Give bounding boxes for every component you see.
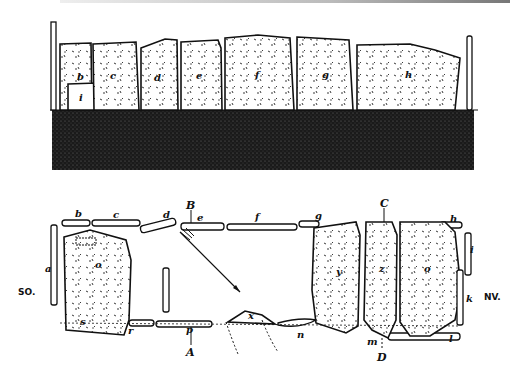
dotted-line-1 [226, 322, 238, 354]
label-g: g [322, 69, 329, 80]
section-C: C [380, 197, 389, 210]
plan-label-z: z [378, 263, 385, 274]
capstone-o-right [400, 222, 461, 336]
plan-label-p: p [186, 324, 193, 335]
slab-c [92, 220, 140, 226]
plan-label-k: k [466, 293, 473, 304]
elevation-stone-f [225, 35, 294, 110]
capstone-y [312, 222, 360, 333]
capstone-z [364, 222, 397, 338]
label-d: d [154, 72, 161, 83]
slab-interior [163, 268, 169, 312]
plan-label-o2: o [424, 263, 431, 274]
slab-g [299, 221, 319, 227]
plan-label-c: c [113, 209, 119, 220]
plan-label-i: i [470, 244, 474, 255]
post-right [467, 36, 472, 110]
elevation-view: b i c d e f g h [50, 22, 478, 170]
plan-label-r: r [128, 325, 134, 336]
plan-label-e: e [197, 212, 203, 223]
plan-label-d: d [163, 209, 170, 220]
slab-f [227, 224, 297, 230]
slab-a [51, 225, 57, 305]
slab-d [140, 218, 177, 234]
plan-label-x: x [247, 310, 255, 321]
orientation-nv: NV. [484, 292, 501, 302]
plan-label-g: g [315, 210, 322, 221]
plan-label-a: a [45, 263, 51, 274]
label-e: e [196, 70, 202, 81]
section-B: B [185, 199, 195, 212]
plan-label-s: s [80, 316, 86, 327]
section-A: A [185, 346, 195, 359]
dolmen-drawing: b i c d e f g h [0, 0, 518, 374]
slab-k [457, 270, 463, 325]
label-i: i [79, 92, 83, 103]
soil-section [52, 110, 474, 170]
slab-b [62, 220, 90, 226]
section-D: D [376, 351, 387, 364]
orientation-so: SO. [18, 287, 35, 297]
plan-label-n: n [297, 329, 304, 340]
plan-label-m: m [367, 336, 378, 347]
plan-label-l: l [449, 333, 453, 344]
plan-label-o: o [95, 259, 102, 270]
label-h: h [405, 69, 412, 80]
label-c: c [110, 70, 116, 81]
post-left [51, 22, 56, 110]
plan-label-b: b [75, 208, 82, 219]
plan-label-f: f [254, 211, 261, 222]
plan-label-y: y [335, 266, 343, 277]
plan-label-h: h [450, 213, 457, 224]
north-arrow [180, 232, 240, 292]
capstone-o [64, 230, 131, 335]
plan-view: b c d e f g h a o s r p x n y z o i k m … [18, 197, 501, 364]
label-b: b [77, 71, 84, 82]
